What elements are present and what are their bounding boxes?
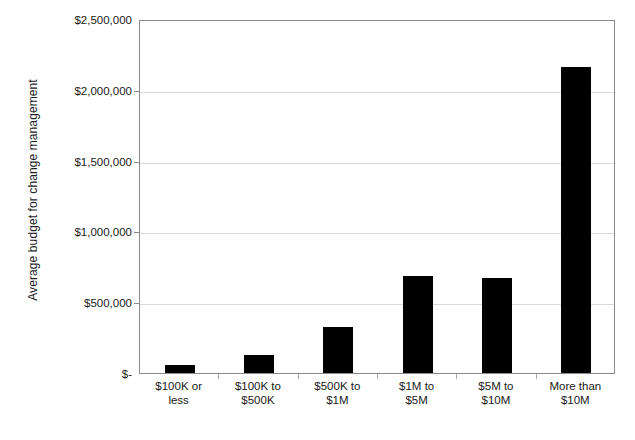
x-axis-tick-label: $100K to$500K (218, 379, 297, 407)
bar-chart: Average budget for change management $-$… (0, 0, 635, 440)
y-axis-tick-label: $2,000,000 (14, 85, 132, 97)
x-axis-tick-label-line: $500K to (298, 379, 377, 393)
x-axis-tick-label-line: More than (536, 379, 615, 393)
y-axis-tick-label: $- (14, 368, 132, 380)
x-axis-tick-label-line: $5M to (456, 379, 535, 393)
bar (323, 327, 353, 373)
x-axis-tick-label-line: $5M (377, 393, 456, 407)
bar (403, 276, 433, 373)
x-axis-tick-label-line: $100K to (218, 379, 297, 393)
y-axis-tick-label: $1,000,000 (14, 226, 132, 238)
x-axis-tick-label-line: $500K (218, 393, 297, 407)
bar (561, 67, 591, 373)
gridline (140, 92, 614, 93)
gridline (140, 163, 614, 164)
x-axis-tick-mark (298, 374, 299, 379)
y-axis-tick-label: $500,000 (14, 297, 132, 309)
x-axis-tick-label-line: $100K or (139, 379, 218, 393)
y-axis-tick-mark (134, 303, 139, 304)
x-axis-tick-mark (218, 374, 219, 379)
y-axis-tick-mark (134, 162, 139, 163)
plot-area (139, 20, 615, 374)
x-axis-tick-mark (377, 374, 378, 379)
gridline (140, 304, 614, 305)
x-axis-tick-label-line: $10M (456, 393, 535, 407)
y-axis-tick-labels: $-$500,000$1,000,000$1,500,000$2,000,000… (8, 0, 132, 440)
x-axis-tick-mark (536, 374, 537, 379)
x-axis-tick-label: $100K orless (139, 379, 218, 407)
x-axis-tick-label: $1M to$5M (377, 379, 456, 407)
bar (244, 355, 274, 373)
y-axis-tick-label: $1,500,000 (14, 156, 132, 168)
y-axis-tick-mark (134, 232, 139, 233)
x-axis-tick-label-line: $1M (298, 393, 377, 407)
x-axis-tick-label: $500K to$1M (298, 379, 377, 407)
x-axis-tick-label-line: $1M to (377, 379, 456, 393)
gridline (140, 233, 614, 234)
x-axis-tick-label: $5M to$10M (456, 379, 535, 407)
y-axis-tick-label: $2,500,000 (14, 14, 132, 26)
bar (165, 365, 195, 373)
y-axis-tick-mark (134, 91, 139, 92)
x-axis-tick-label-line: less (139, 393, 218, 407)
x-axis-tick-label: More than$10M (536, 379, 615, 407)
bar (482, 278, 512, 373)
x-axis-tick-mark (456, 374, 457, 379)
x-axis-tick-label-line: $10M (536, 393, 615, 407)
x-axis-tick-labels: $100K orless$100K to$500K$500K to$1M$1M … (139, 379, 615, 419)
